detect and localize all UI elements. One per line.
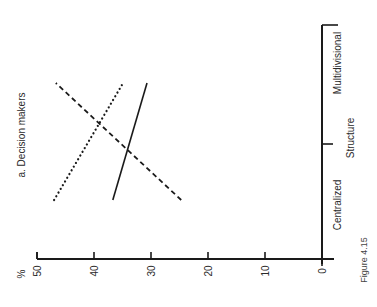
chart: 01020304050 % a. Decision makers Central… xyxy=(0,0,377,307)
series-line-dotted xyxy=(54,83,123,200)
chart-title: a. Decision makers xyxy=(16,92,27,177)
figure-caption: Figure 4.15 xyxy=(359,237,369,283)
value-tick-label: 10 xyxy=(260,265,271,277)
category-label-centralized: Centralized xyxy=(332,180,343,231)
value-ticks: 01020304050 xyxy=(32,252,328,277)
value-tick-label: 30 xyxy=(146,265,157,277)
series-lines xyxy=(54,83,181,200)
x-axis-label: Structure xyxy=(345,117,356,158)
value-tick-label: 40 xyxy=(89,265,100,277)
value-tick-label: 50 xyxy=(32,265,43,277)
value-tick-label: 0 xyxy=(317,268,328,274)
value-tick-label: 20 xyxy=(203,265,214,277)
y-axis-label: % xyxy=(16,269,27,278)
category-label-multidivisional: Multidivisional xyxy=(332,32,343,94)
